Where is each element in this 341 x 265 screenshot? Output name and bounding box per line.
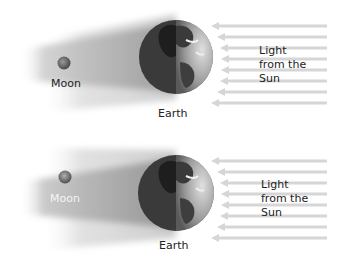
arrow <box>211 22 327 30</box>
earth-label: Earth <box>159 239 189 252</box>
arrow <box>217 223 327 231</box>
arrow <box>211 157 327 165</box>
eclipse-diagram-top: Moon Earth Light from the Sun <box>0 0 341 132</box>
moon-icon <box>58 57 71 70</box>
arrow <box>217 88 327 96</box>
arrow <box>217 168 327 176</box>
moon-label: Moon <box>51 77 81 90</box>
eclipse-diagram-bottom: Moon Earth Light from the Sun <box>0 132 341 265</box>
arrow <box>211 234 327 242</box>
earth-label: Earth <box>158 107 188 120</box>
sunlight-label: Light from the Sun <box>259 44 306 86</box>
moon-icon <box>59 171 72 184</box>
arrow <box>217 33 327 41</box>
arrow <box>211 99 327 107</box>
moon-label: Moon <box>50 192 80 205</box>
sunlight-label: Light from the Sun <box>261 178 308 220</box>
